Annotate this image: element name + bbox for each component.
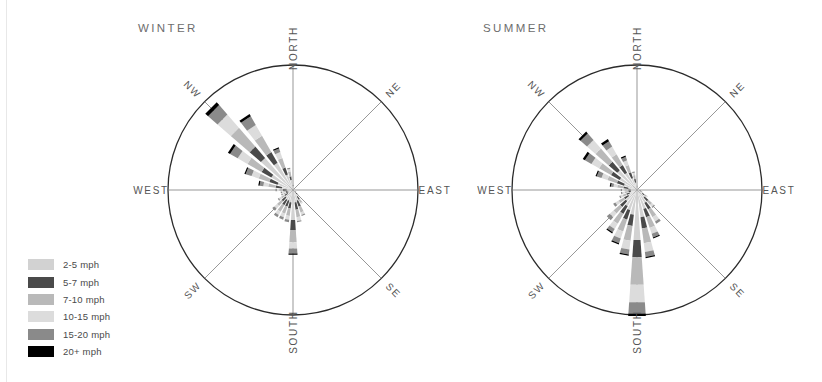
rose-petal-segment — [642, 227, 651, 243]
legend-label: 20+ mph — [63, 346, 102, 357]
rose-petal-segment — [617, 185, 624, 189]
compass-label-east: EAST — [419, 185, 452, 196]
legend-label: 5-7 mph — [63, 277, 99, 288]
compass-label-north: NORTH — [632, 26, 643, 70]
compass-label-nw: NW — [182, 79, 204, 101]
legend: 2-5 mph5-7 mph7-10 mph10-15 mph15-20 mph… — [28, 256, 138, 360]
legend-swatch — [28, 346, 54, 357]
rose-petal-segment — [276, 189, 277, 191]
legend-swatch — [28, 259, 54, 270]
compass-label-west: WEST — [477, 185, 513, 196]
legend-swatch — [28, 294, 54, 305]
compass-label-ne: NE — [383, 80, 403, 100]
rose-petal-segment — [289, 230, 296, 242]
rose-petal-segment — [283, 189, 287, 190]
rose-petal-segment — [268, 183, 276, 187]
rose-petal-segment — [621, 189, 622, 191]
legend-swatch — [28, 277, 54, 288]
rose-petal-segment — [283, 191, 286, 193]
compass-label-se: SE — [384, 281, 404, 301]
rose-petal-segment — [277, 189, 279, 191]
compass-label-south: SOUTH — [288, 310, 299, 354]
compass-label-ne: NE — [727, 80, 747, 100]
rose-petal-segment — [630, 257, 643, 284]
rose-petal-segment — [289, 176, 291, 180]
rose-petal-segment — [289, 242, 297, 248]
rose-petal-segment — [621, 239, 630, 249]
panel-summer: SUMMER NORTHNEEASTSESOUTHSWWESTNW — [465, 0, 822, 382]
rose-petal-segment — [288, 171, 291, 176]
rose-petal-segment — [632, 240, 641, 257]
rose-petal-segment — [613, 184, 617, 188]
legend-label: 15-20 mph — [63, 329, 110, 340]
rose-petal-segment — [289, 249, 298, 254]
rose-petal-segment — [293, 185, 294, 186]
rose-petal-segment — [625, 189, 629, 191]
rose-petal-segment — [288, 254, 297, 255]
rose-petal-segment — [627, 214, 633, 226]
compass-label-west: WEST — [133, 185, 169, 196]
rose-petal-segment — [634, 190, 641, 240]
rose-petal-segment — [637, 185, 638, 186]
rose-petal-segment — [632, 173, 635, 176]
rose-petal-segment — [290, 220, 296, 230]
compass-label-nw: NW — [526, 79, 548, 101]
legend-item: 5-7 mph — [28, 273, 138, 290]
rose-petal-segment — [629, 285, 645, 302]
rose-petal-segment — [279, 189, 283, 191]
rose-petal-segment — [622, 192, 625, 194]
rose-petal-segment — [628, 189, 631, 190]
rose-petal-segment — [291, 190, 295, 220]
rose-petal-segment — [641, 192, 642, 193]
compass-label-se: SE — [728, 281, 748, 301]
compass-label-south: SOUTH — [632, 310, 643, 354]
rose-petal-segment — [624, 225, 633, 241]
rose-petal-segment — [640, 217, 647, 229]
left-margin-rule — [6, 0, 7, 382]
legend-swatch — [28, 311, 54, 322]
wind-rose-figure: WINTER NORTHNEEASTSESOUTHSWWESTNW SUMMER… — [0, 0, 822, 382]
legend-label: 2-5 mph — [63, 259, 99, 270]
rose-petal-segment — [286, 208, 291, 216]
legend-item: 20+ mph — [28, 343, 138, 360]
rose-petal-segment — [625, 191, 629, 193]
legend-item: 15-20 mph — [28, 326, 138, 343]
compass-label-north: NORTH — [288, 26, 299, 70]
rose-petal-segment — [633, 175, 636, 179]
rose-petal-segment — [637, 186, 638, 187]
rose-petals — [579, 132, 661, 316]
rose-petal-segment — [622, 189, 624, 191]
rose-petal-segment — [299, 206, 304, 213]
rose-petal-segment — [293, 184, 294, 185]
legend-item: 10-15 mph — [28, 308, 138, 325]
rose-petal-segment — [296, 209, 301, 217]
legend-label: 10-15 mph — [63, 311, 110, 322]
rose-petal-segment — [628, 191, 631, 193]
legend-swatch — [28, 329, 54, 340]
legend-label: 7-10 mph — [63, 294, 105, 305]
legend-item: 7-10 mph — [28, 291, 138, 308]
rose-petal-segment — [644, 242, 654, 252]
rose-petals — [205, 102, 305, 255]
compass-label-sw: SW — [182, 280, 204, 302]
rose-petal-segment — [263, 182, 269, 187]
wind-rose-summer: NORTHNEEASTSESOUTHSWWESTNW — [465, 0, 822, 382]
compass-label-sw: SW — [526, 280, 548, 302]
wind-rose-winter: NORTHNEEASTSESOUTHSWWESTNW — [120, 0, 510, 382]
compass-label-east: EAST — [763, 185, 796, 196]
legend-item: 2-5 mph — [28, 256, 138, 273]
panel-winter: WINTER NORTHNEEASTSESOUTHSWWESTNW — [120, 0, 510, 382]
